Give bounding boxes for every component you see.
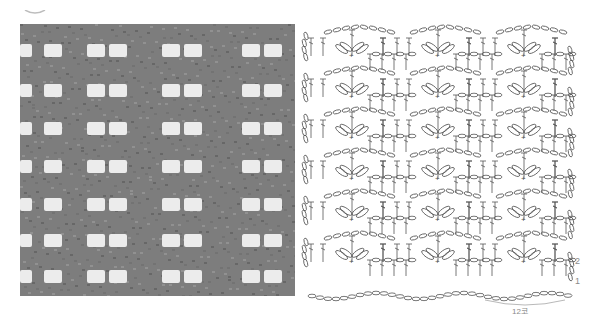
svg-text:+: + xyxy=(435,92,440,101)
crochet-swatch-photo xyxy=(20,24,295,296)
svg-text:+: + xyxy=(349,51,354,60)
svg-text:+: + xyxy=(349,133,354,142)
row-label-2: 2 xyxy=(575,256,580,266)
svg-text:+: + xyxy=(435,133,440,142)
svg-text:+: + xyxy=(349,174,354,183)
repeat-width-label: 12코 xyxy=(512,305,528,316)
svg-text:+: + xyxy=(435,215,440,224)
svg-text:+: + xyxy=(349,257,354,266)
svg-text:+: + xyxy=(349,92,354,101)
crochet-stitch-chart: ++++++++++++++++++ 2 1 12코 xyxy=(300,18,600,334)
svg-text:+: + xyxy=(521,51,526,60)
svg-text:+: + xyxy=(521,174,526,183)
svg-text:+: + xyxy=(435,257,440,266)
row-label-1: 1 xyxy=(575,276,580,286)
svg-text:+: + xyxy=(435,174,440,183)
stitch-symbols: ++++++++++++++++++ xyxy=(300,18,600,334)
svg-text:+: + xyxy=(521,92,526,101)
svg-text:+: + xyxy=(521,215,526,224)
corner-decoration xyxy=(24,0,46,4)
svg-text:+: + xyxy=(521,257,526,266)
svg-text:+: + xyxy=(349,215,354,224)
svg-text:+: + xyxy=(435,51,440,60)
yarn-ball-icon xyxy=(24,10,46,14)
svg-text:+: + xyxy=(521,133,526,142)
swatch-texture xyxy=(20,24,295,296)
